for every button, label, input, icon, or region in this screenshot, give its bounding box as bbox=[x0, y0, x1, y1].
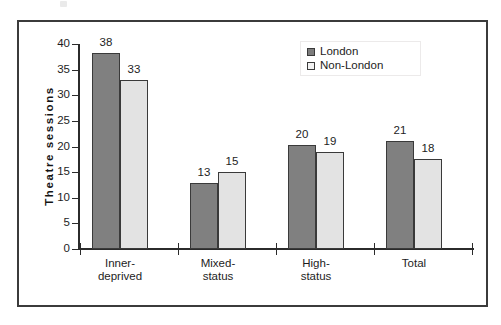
chart-legend: London Non-London bbox=[300, 41, 421, 76]
bar-value-label: 21 bbox=[378, 125, 422, 137]
y-axis-tick-label: 40 bbox=[44, 38, 70, 50]
legend-item-non-london: Non-London bbox=[307, 59, 414, 73]
x-axis-category-label: Inner- deprived bbox=[74, 257, 166, 283]
y-axis-tick-label: 30 bbox=[44, 89, 70, 101]
x-axis-tick bbox=[178, 243, 179, 255]
x-axis-tick bbox=[80, 243, 81, 255]
bar-value-label: 15 bbox=[210, 156, 254, 168]
legend-item-london: London bbox=[307, 45, 414, 59]
y-tick-label-group: 4035302520151050 bbox=[40, 0, 70, 325]
x-axis-category-label: Mixed- status bbox=[172, 257, 264, 283]
y-axis-tick bbox=[72, 70, 80, 71]
x-axis-category-label: High- status bbox=[270, 257, 362, 283]
bar-non-london bbox=[414, 159, 442, 249]
y-axis-tick-label: 5 bbox=[44, 217, 70, 229]
legend-swatch-non-london-icon bbox=[307, 62, 315, 70]
bar-london bbox=[386, 141, 414, 249]
y-axis-tick-label: 35 bbox=[44, 64, 70, 76]
x-axis-tick bbox=[472, 243, 473, 255]
y-axis-tick-label: 15 bbox=[44, 166, 70, 178]
y-axis-tick bbox=[72, 172, 80, 173]
x-axis-tick bbox=[276, 243, 277, 255]
bar-london bbox=[190, 183, 218, 249]
bar-london bbox=[288, 145, 316, 249]
y-axis-tick-label: 0 bbox=[44, 243, 70, 255]
y-axis-tick bbox=[72, 44, 80, 45]
y-axis-tick bbox=[72, 198, 80, 199]
y-axis-tick bbox=[72, 121, 80, 122]
y-axis-tick bbox=[72, 249, 80, 250]
y-axis-tick bbox=[72, 95, 80, 96]
bar-non-london bbox=[218, 172, 246, 249]
y-axis-tick-label: 20 bbox=[44, 141, 70, 153]
bar-non-london bbox=[316, 152, 344, 249]
legend-swatch-london-icon bbox=[307, 48, 315, 56]
bar-value-label: 38 bbox=[84, 37, 128, 49]
y-axis-tick bbox=[72, 147, 80, 148]
legend-label-non-london: Non-London bbox=[320, 60, 383, 72]
x-axis-tick bbox=[374, 243, 375, 255]
legend-label-london: London bbox=[320, 46, 358, 58]
y-axis-tick-label: 25 bbox=[44, 115, 70, 127]
y-axis-tick-label: 10 bbox=[44, 192, 70, 204]
bar-london bbox=[92, 53, 120, 249]
bar-non-london bbox=[120, 80, 148, 249]
x-axis-category-label: Total bbox=[368, 257, 460, 270]
y-axis-tick bbox=[72, 223, 80, 224]
